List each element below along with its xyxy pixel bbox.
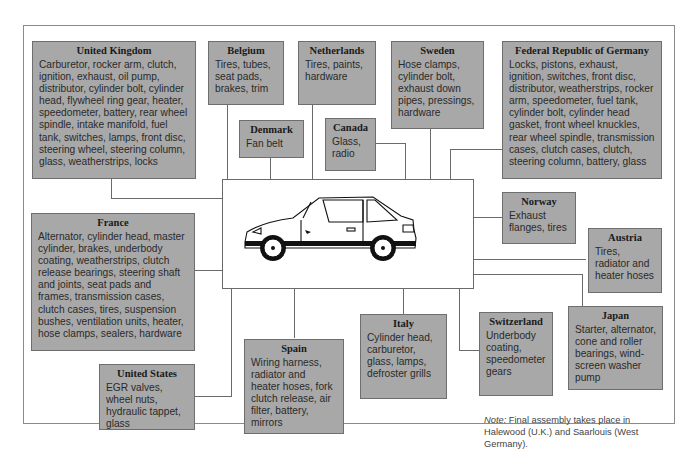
- connector-denmark: [270, 157, 271, 179]
- country-box-austria: Austria Tires, radiator and heater hoses: [588, 228, 662, 293]
- country-name: United States: [106, 368, 188, 379]
- country-box-denmark: Denmark Fan belt: [239, 120, 304, 158]
- country-parts: Starter, alternator, cone and roller bea…: [575, 324, 656, 384]
- assembly-note: Note: Final assembly takes place in Hale…: [484, 414, 674, 450]
- country-parts: Tires, paints, hardware: [305, 59, 369, 83]
- country-box-belgium: Belgium Tires, tubes, seat pads, brakes,…: [208, 41, 284, 105]
- connector-uk: [111, 178, 112, 199]
- connector-netherlands: [312, 104, 313, 179]
- country-name: Italy: [367, 318, 440, 329]
- connector-italy: [403, 289, 404, 314]
- country-box-switzerland: Switzerland Underbody coating, speedomet…: [479, 312, 553, 396]
- country-parts: Hose clamps, cylinder bolt, exhaust down…: [398, 59, 477, 119]
- connector-us-horiz: [195, 396, 232, 397]
- country-box-france: France Alternator, cylinder head, master…: [31, 213, 195, 351]
- connector-switzerland-v: [459, 289, 460, 350]
- connector-belgium: [227, 104, 228, 179]
- country-box-netherlands: Netherlands Tires, paints, hardware: [298, 41, 376, 105]
- country-name: Federal Republic of Germany: [509, 45, 655, 56]
- country-name: Sweden: [398, 45, 477, 56]
- country-box-japan: Japan Starter, alternator, cone and roll…: [568, 306, 663, 390]
- country-parts: Carburetor, rocker arm, clutch, ignition…: [39, 59, 189, 168]
- country-name: United Kingdom: [39, 45, 189, 56]
- country-parts: Locks, pistons, exhaust, ignition, switc…: [509, 59, 655, 168]
- note-text: Final assembly takes place in Halewood (…: [484, 415, 638, 449]
- country-parts: Underbody coating, speedometer gears: [486, 330, 546, 378]
- country-name: Denmark: [246, 124, 297, 135]
- country-parts: EGR valves, wheel nuts, hydraulic tappet…: [106, 382, 188, 430]
- country-parts: Tires, tubes, seat pads, brakes, trim: [215, 59, 277, 95]
- country-box-us: United States EGR valves, wheel nuts, hy…: [99, 364, 195, 430]
- connector-japan-h: [474, 274, 582, 275]
- connector-canada-v: [405, 143, 406, 179]
- car-icon: [223, 180, 473, 288]
- country-name: Spain: [251, 343, 337, 354]
- connector-austria: [474, 259, 586, 260]
- country-name: Netherlands: [305, 45, 369, 56]
- country-name: Switzerland: [486, 316, 546, 327]
- country-box-spain: Spain Wiring harness, radiator and heate…: [244, 339, 344, 434]
- country-name: France: [38, 217, 188, 228]
- connector-uk-h: [111, 198, 222, 199]
- country-name: Austria: [595, 232, 655, 243]
- connector-sweden: [430, 127, 431, 179]
- country-name: Japan: [575, 310, 656, 321]
- connector-switzerland-h: [459, 350, 479, 351]
- country-box-norway: Norway Exhaust flanges, tires: [502, 192, 576, 244]
- country-box-italy: Italy Cylinder head, carburetor, glass, …: [360, 314, 447, 399]
- connector-france: [195, 270, 222, 271]
- country-parts: Exhaust flanges, tires: [509, 210, 569, 234]
- country-box-sweden: Sweden Hose clamps, cylinder bolt, exhau…: [391, 41, 484, 129]
- country-parts: Fan belt: [246, 138, 297, 150]
- country-box-germany: Federal Republic of Germany Locks, pisto…: [502, 41, 662, 179]
- country-name: Belgium: [215, 45, 277, 56]
- country-box-canada: Canada Glass, radio: [325, 118, 376, 171]
- connector-canada-h: [375, 143, 405, 144]
- connector-us-vert: [231, 289, 232, 396]
- car-panel: [222, 179, 474, 289]
- country-parts: Wiring harness, radiator and heater hose…: [251, 357, 337, 430]
- country-name: Norway: [509, 196, 569, 207]
- note-label: Note:: [484, 415, 506, 425]
- country-parts: Alternator, cylinder head, master cylind…: [38, 231, 188, 340]
- country-name: Canada: [332, 122, 369, 133]
- country-box-uk: United Kingdom Carburetor, rocker arm, c…: [32, 41, 196, 179]
- country-parts: Glass, radio: [332, 136, 369, 160]
- country-parts: Cylinder head, carburetor, glass, lamps,…: [367, 332, 440, 380]
- country-parts: Tires, radiator and heater hoses: [595, 246, 655, 282]
- connector-japan-v: [582, 274, 583, 306]
- connector-spain: [294, 289, 295, 338]
- connector-germany-v: [450, 149, 451, 179]
